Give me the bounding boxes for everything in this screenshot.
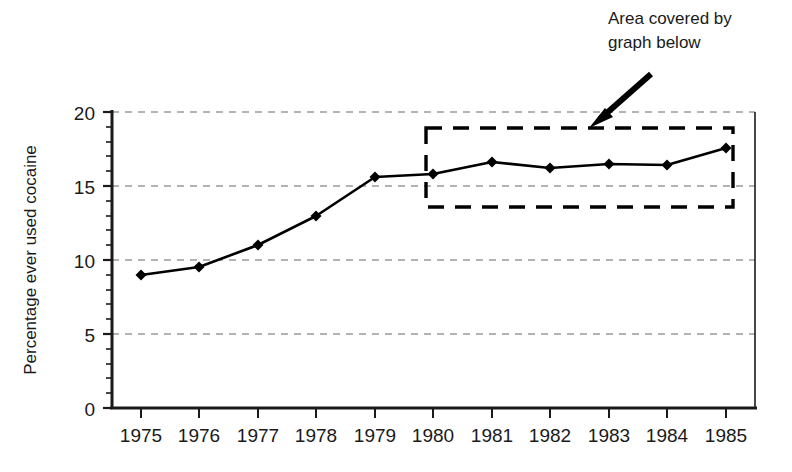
cocaine-use-line-chart-figure: 20 15 10 5 0 1975 1976 1977 1978 1979 19… <box>0 0 792 472</box>
x-tick-label-1985: 1985 <box>705 425 747 446</box>
x-tick-label-1981: 1981 <box>471 425 513 446</box>
x-tick-label-1983: 1983 <box>588 425 630 446</box>
x-tick-label-1984: 1984 <box>646 425 689 446</box>
y-tick-label-15: 15 <box>74 177 95 198</box>
x-tick-label-1980: 1980 <box>412 425 454 446</box>
x-tick-label-1975: 1975 <box>120 425 162 446</box>
x-tick-label-1979: 1979 <box>354 425 396 446</box>
x-tick-label-1982: 1982 <box>529 425 571 446</box>
y-tick-label-5: 5 <box>84 325 95 346</box>
y-tick-label-0: 0 <box>84 399 95 420</box>
y-axis-title: Percentage ever used cocaine <box>21 145 40 375</box>
x-tick-label-1976: 1976 <box>178 425 220 446</box>
y-tick-labels: 20 15 10 5 0 <box>74 103 95 420</box>
x-tick-labels: 1975 1976 1977 1978 1979 1980 1981 1982 … <box>120 425 747 446</box>
x-tick-label-1977: 1977 <box>237 425 279 446</box>
callout-text-line-1: Area covered by <box>608 9 732 28</box>
x-tick-label-1978: 1978 <box>295 425 337 446</box>
y-tick-label-20: 20 <box>74 103 95 124</box>
y-tick-label-10: 10 <box>74 251 95 272</box>
callout-text-line-2: graph below <box>608 33 701 52</box>
chart-canvas: 20 15 10 5 0 1975 1976 1977 1978 1979 19… <box>0 0 792 472</box>
